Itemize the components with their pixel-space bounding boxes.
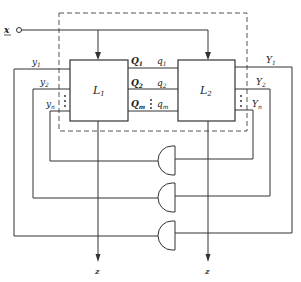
label-Qm: Qm <box>131 99 145 110</box>
ellipsis-dots-q <box>150 99 152 109</box>
and-gate-1 <box>158 221 175 250</box>
label-q2: q2 <box>157 78 167 89</box>
label-y1: y1 <box>31 57 41 68</box>
output-z-right <box>206 121 211 262</box>
label-y2: y2 <box>39 77 49 88</box>
label-Yn: Yn <box>252 99 262 110</box>
label-q1: q1 <box>157 56 167 67</box>
input-x-label: x <box>3 25 10 35</box>
output-z-right-label: z <box>204 266 210 276</box>
ellipsis-dots-Y <box>240 95 242 107</box>
label-Y1: Y1 <box>266 55 276 66</box>
input-x <box>17 28 212 61</box>
output-z-left-label: z <box>94 266 100 276</box>
label-Y2: Y2 <box>256 77 266 88</box>
label-yn: yn <box>45 99 55 110</box>
label-Q2: Q2 <box>131 78 143 89</box>
circuit-diagram: x L1 L2 Q1 Q2 Qm q1 q2 qm y1 y2 yn Y1 Y2… <box>0 0 301 282</box>
output-z-left <box>96 121 101 262</box>
and-gate-n <box>158 146 175 175</box>
label-Q1: Q1 <box>131 56 143 67</box>
label-qm: qm <box>157 99 169 110</box>
and-gate-2 <box>158 183 175 212</box>
ellipsis-dots-y <box>64 95 66 107</box>
